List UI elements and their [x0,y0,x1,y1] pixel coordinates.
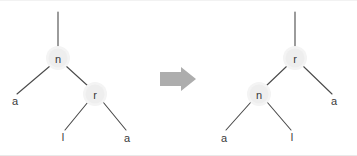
tree-rotation-diagram: n r a l a [0,0,357,156]
diagram-canvas: n r a l a [0,1,357,156]
leaf-a-left-1-label: a [12,95,19,107]
node-r-left-label: r [93,89,97,101]
node-r-right-label: r [293,53,297,65]
transform-arrow [160,67,196,91]
edge-r-to-n-right [266,66,287,86]
node-n-right-label: n [256,89,262,101]
leaf-a-right-1-label: a [221,132,228,144]
edge-r-to-l-left [65,102,88,130]
edge-n-to-a-left [17,66,50,94]
node-n-left-label: n [55,53,61,65]
edge-n-to-r-left [66,66,88,86]
edge-n-to-a-right [226,102,251,130]
tree-after: r n a l a [221,12,338,144]
leaf-a-right-2-label: a [331,95,338,107]
leaf-l-right-label: l [291,131,293,143]
leaf-a-left-2-label: a [124,132,131,144]
edge-r-to-a-left [103,102,126,130]
tree-before: n r a l a [12,12,131,144]
edge-r-to-a-right [303,66,332,94]
edge-n-to-l-right [267,102,291,130]
leaf-l-left-label: l [62,131,64,143]
transform-arrow-icon [160,67,196,91]
